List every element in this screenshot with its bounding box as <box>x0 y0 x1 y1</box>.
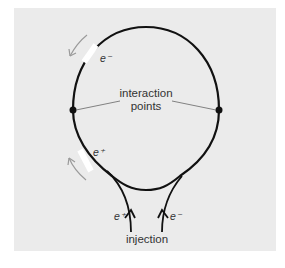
leader-line-right <box>172 101 216 110</box>
injection-positron-label: e⁺ <box>114 210 127 222</box>
interaction-label-line1: interaction <box>119 87 172 99</box>
electron-direction-arrow-icon <box>70 35 87 56</box>
collider-diagram: interaction points e⁻ e⁺ e⁺ e⁻ injection <box>0 0 285 268</box>
interaction-point-right <box>216 107 223 114</box>
interaction-label-line2: points <box>131 100 162 112</box>
injection-electron-label: e⁻ <box>170 210 183 222</box>
injection-label: injection <box>126 233 168 245</box>
leader-line-left <box>76 101 120 110</box>
electron-injection-line <box>162 176 182 232</box>
positron-bunch-label: e⁺ <box>93 146 106 158</box>
interaction-point-left <box>70 107 77 114</box>
electron-bunch-label: e⁻ <box>100 52 113 64</box>
electron-bunch <box>84 45 96 62</box>
